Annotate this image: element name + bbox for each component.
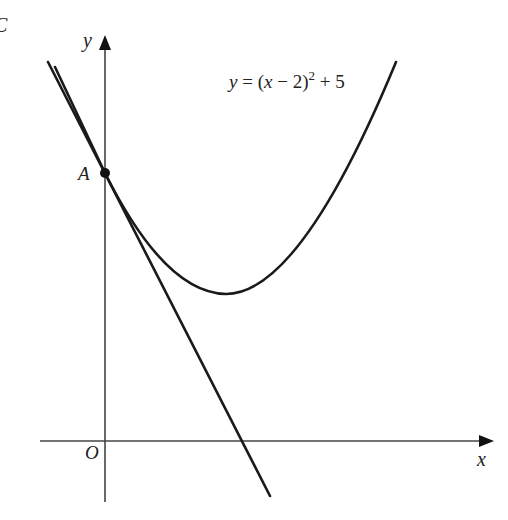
point-a-label: A <box>76 163 90 184</box>
equation-equals: = ( <box>237 71 264 93</box>
x-axis-arrow-icon <box>479 435 494 447</box>
curve-equation: y = (x − 2)2 + 5 <box>227 68 345 93</box>
tangent-line <box>48 62 270 496</box>
equation-minus-two: − 2) <box>272 71 308 93</box>
y-axis-label: y <box>81 29 92 52</box>
equation-y: y <box>227 71 238 92</box>
x-axis-label: x <box>476 448 486 470</box>
equation-plus-five: + 5 <box>315 71 345 92</box>
point-a-marker <box>100 168 110 178</box>
y-axis-arrow-icon <box>99 35 111 50</box>
origin-label: O <box>85 442 99 463</box>
graph-diagram: C y x O A y = (x − 2)2 + 5 <box>0 0 508 520</box>
corner-glyph: C <box>0 14 8 36</box>
